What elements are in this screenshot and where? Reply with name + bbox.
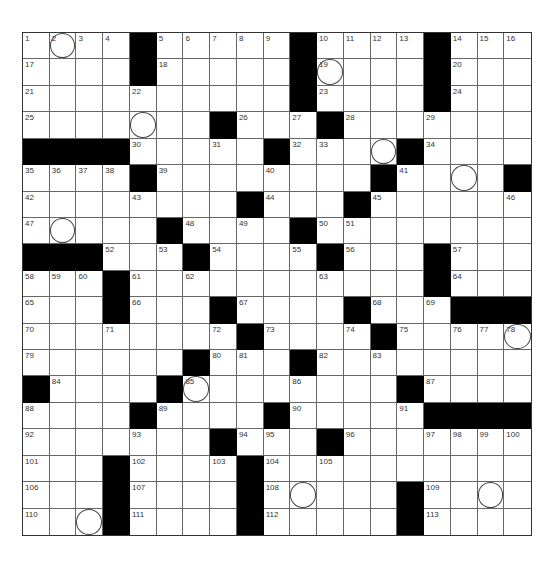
grid-cell[interactable]: 84 <box>50 376 77 402</box>
grid-cell[interactable] <box>50 456 77 482</box>
grid-cell[interactable] <box>397 456 424 482</box>
grid-cell[interactable] <box>478 59 505 85</box>
grid-cell[interactable]: 17 <box>23 59 50 85</box>
grid-cell[interactable]: 53 <box>157 244 184 270</box>
grid-cell[interactable]: 63 <box>317 271 344 297</box>
grid-cell[interactable] <box>451 192 478 218</box>
grid-cell[interactable]: 90 <box>290 403 317 429</box>
grid-cell[interactable] <box>103 59 130 85</box>
grid-cell[interactable] <box>76 350 103 376</box>
grid-cell[interactable] <box>157 482 184 508</box>
grid-cell[interactable] <box>371 456 398 482</box>
grid-cell[interactable] <box>397 244 424 270</box>
grid-cell[interactable] <box>50 350 77 376</box>
grid-cell[interactable] <box>371 403 398 429</box>
grid-cell[interactable] <box>183 509 210 535</box>
grid-cell[interactable] <box>451 376 478 402</box>
grid-cell[interactable]: 66 <box>130 297 157 323</box>
grid-cell[interactable] <box>451 456 478 482</box>
grid-cell[interactable] <box>290 297 317 323</box>
grid-cell[interactable] <box>397 271 424 297</box>
grid-cell[interactable] <box>210 271 237 297</box>
grid-cell[interactable]: 40 <box>264 165 291 191</box>
grid-cell[interactable] <box>504 59 531 85</box>
grid-cell[interactable] <box>210 86 237 112</box>
grid-cell[interactable] <box>76 297 103 323</box>
grid-cell[interactable] <box>317 376 344 402</box>
grid-cell[interactable] <box>397 59 424 85</box>
grid-cell[interactable]: 56 <box>344 244 371 270</box>
grid-cell[interactable] <box>210 403 237 429</box>
grid-cell[interactable] <box>157 86 184 112</box>
grid-cell[interactable] <box>183 324 210 350</box>
grid-cell[interactable] <box>317 297 344 323</box>
grid-cell[interactable]: 4 <box>103 33 130 59</box>
grid-cell[interactable]: 100 <box>504 429 531 455</box>
grid-cell[interactable] <box>237 86 264 112</box>
grid-cell[interactable] <box>451 350 478 376</box>
grid-cell[interactable]: 75 <box>397 324 424 350</box>
grid-cell[interactable]: 11 <box>344 33 371 59</box>
grid-cell[interactable] <box>504 218 531 244</box>
grid-cell[interactable] <box>237 271 264 297</box>
grid-cell[interactable] <box>157 297 184 323</box>
grid-cell[interactable]: 101 <box>23 456 50 482</box>
grid-cell[interactable] <box>157 192 184 218</box>
grid-cell[interactable] <box>397 86 424 112</box>
grid-cell[interactable] <box>451 112 478 138</box>
grid-cell[interactable] <box>451 482 478 508</box>
grid-cell[interactable] <box>290 482 317 508</box>
grid-cell[interactable]: 91 <box>397 403 424 429</box>
grid-cell[interactable] <box>103 376 130 402</box>
grid-cell[interactable]: 13 <box>397 33 424 59</box>
grid-cell[interactable] <box>478 271 505 297</box>
grid-cell[interactable] <box>371 509 398 535</box>
grid-cell[interactable]: 54 <box>210 244 237 270</box>
grid-cell[interactable] <box>157 139 184 165</box>
grid-cell[interactable] <box>371 218 398 244</box>
grid-cell[interactable] <box>504 376 531 402</box>
grid-cell[interactable] <box>264 244 291 270</box>
grid-cell[interactable] <box>76 509 103 535</box>
grid-cell[interactable]: 77 <box>478 324 505 350</box>
grid-cell[interactable] <box>157 509 184 535</box>
grid-cell[interactable]: 37 <box>76 165 103 191</box>
grid-cell[interactable] <box>50 86 77 112</box>
grid-cell[interactable]: 42 <box>23 192 50 218</box>
grid-cell[interactable] <box>344 376 371 402</box>
grid-cell[interactable] <box>344 139 371 165</box>
grid-cell[interactable] <box>397 429 424 455</box>
grid-cell[interactable] <box>451 218 478 244</box>
grid-cell[interactable]: 82 <box>317 350 344 376</box>
grid-cell[interactable] <box>344 482 371 508</box>
grid-cell[interactable]: 110 <box>23 509 50 535</box>
grid-cell[interactable]: 35 <box>23 165 50 191</box>
grid-cell[interactable] <box>424 350 451 376</box>
grid-cell[interactable]: 20 <box>451 59 478 85</box>
grid-cell[interactable] <box>371 112 398 138</box>
grid-cell[interactable] <box>76 86 103 112</box>
grid-cell[interactable]: 112 <box>264 509 291 535</box>
grid-cell[interactable]: 22 <box>130 86 157 112</box>
grid-cell[interactable]: 79 <box>23 350 50 376</box>
grid-cell[interactable] <box>504 350 531 376</box>
grid-cell[interactable] <box>344 271 371 297</box>
grid-cell[interactable] <box>344 403 371 429</box>
grid-cell[interactable]: 113 <box>424 509 451 535</box>
grid-cell[interactable] <box>504 456 531 482</box>
grid-cell[interactable]: 9 <box>264 33 291 59</box>
grid-cell[interactable]: 1 <box>23 33 50 59</box>
grid-cell[interactable] <box>103 86 130 112</box>
grid-cell[interactable] <box>344 165 371 191</box>
grid-cell[interactable] <box>478 112 505 138</box>
grid-cell[interactable]: 68 <box>371 297 398 323</box>
grid-cell[interactable]: 12 <box>371 33 398 59</box>
grid-cell[interactable] <box>371 244 398 270</box>
grid-cell[interactable]: 27 <box>290 112 317 138</box>
grid-cell[interactable]: 97 <box>424 429 451 455</box>
grid-cell[interactable] <box>424 192 451 218</box>
grid-cell[interactable] <box>210 192 237 218</box>
grid-cell[interactable] <box>76 482 103 508</box>
grid-cell[interactable]: 70 <box>23 324 50 350</box>
grid-cell[interactable] <box>397 350 424 376</box>
